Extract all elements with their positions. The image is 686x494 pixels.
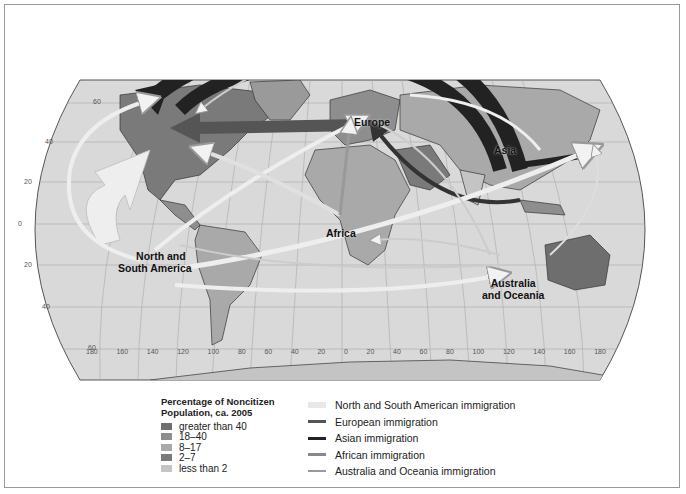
lat-tick: 40 — [42, 303, 50, 310]
legend-item: 2–7 — [161, 453, 275, 464]
swatch — [161, 423, 172, 430]
legend-item: greater than 40 — [161, 421, 275, 432]
arrow-icon — [308, 402, 326, 408]
legend-item: Asian immigration — [308, 430, 515, 447]
immigration-legend: North and South American immigration Eur… — [308, 397, 515, 480]
legend-item: North and South American immigration — [308, 397, 515, 414]
arrow-icon — [308, 470, 326, 472]
lat-tick: 0 — [18, 220, 22, 227]
lat-tick: 40 — [45, 138, 53, 145]
legend-item: less than 2 — [161, 463, 275, 474]
arrow-icon — [308, 453, 326, 456]
label-europe: Europe — [354, 116, 390, 128]
legend-item: Australia and Oceania immigration — [308, 463, 515, 480]
swatch — [161, 454, 172, 461]
label-oceania: Australia and Oceania — [482, 277, 544, 301]
lat-tick: 60 — [93, 98, 101, 105]
arrow-icon — [308, 420, 326, 423]
legend-item: 8–17 — [161, 442, 275, 453]
swatch — [161, 465, 172, 472]
legend-item: African immigration — [308, 447, 515, 464]
swatch — [161, 444, 172, 451]
legend-title: Percentage of Noncitizen Population, ca.… — [161, 396, 275, 418]
lat-tick: 20 — [24, 178, 32, 185]
lat-tick: 20 — [24, 261, 32, 268]
european-immigration-arrow — [195, 125, 360, 128]
longitude-ticks: 180 160 140 120 100 80 60 40 20 0 20 40 … — [86, 348, 606, 355]
swatch — [161, 433, 172, 440]
label-africa: Africa — [326, 227, 356, 239]
label-americas: North and South America — [118, 250, 192, 274]
legend-item: European immigration — [308, 414, 515, 431]
population-legend: Percentage of Noncitizen Population, ca.… — [161, 396, 275, 474]
label-asia: Asia — [494, 144, 516, 156]
legend-item: 18–40 — [161, 432, 275, 443]
arrow-icon — [308, 437, 326, 440]
